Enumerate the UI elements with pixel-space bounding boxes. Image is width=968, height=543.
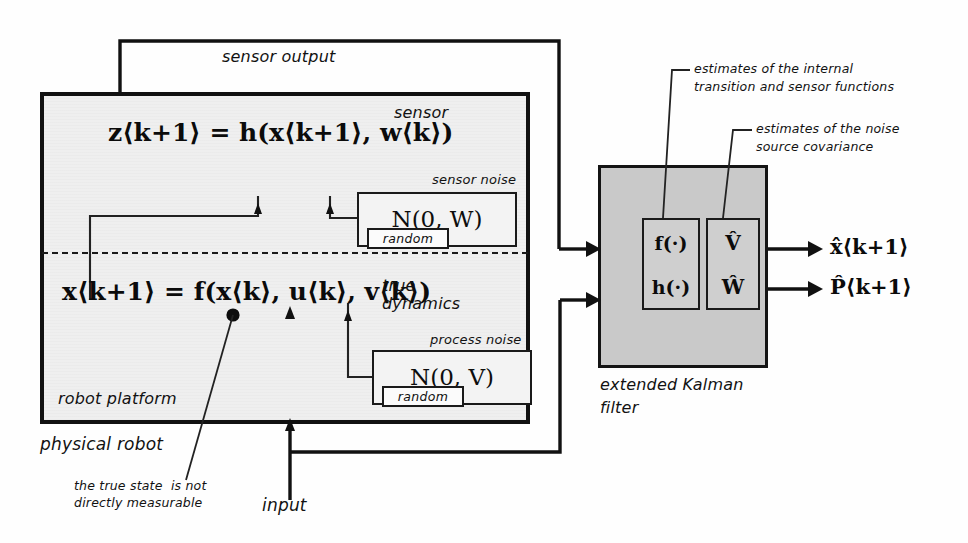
arrowhead-ekf-output-covariance — [808, 281, 823, 297]
arrowhead-state-feedback — [254, 203, 262, 214]
sensor-equation: z⟨k+1⟩ = h(x⟨k+1⟩, w⟨k⟩) — [108, 118, 453, 149]
wire-process-noise — [348, 303, 372, 377]
arrowhead-input-into-u — [285, 306, 295, 319]
estimates-functions-annotation-1: estimates of the internal — [694, 61, 853, 76]
arrowhead-input-into-robot — [285, 418, 295, 431]
true-dynamics-label-2: dynamics — [382, 294, 460, 314]
sensor-noise-caption: sensor noise — [432, 172, 516, 188]
ekf-caption-1: extended Kalman — [600, 375, 744, 395]
arrowhead-ekf-input-sensor — [586, 241, 601, 257]
true-state-annotation-1: the true state is not — [74, 478, 207, 493]
estimates-noise-annotation-1: estimates of the noise — [756, 121, 900, 136]
robot-platform-label: robot platform — [58, 389, 177, 409]
arrowhead-sensor-noise — [326, 203, 334, 214]
leader-estimates-noise — [723, 130, 752, 218]
input-label: input — [262, 495, 307, 516]
true-state-annotation-2: directly measurable — [74, 495, 203, 510]
ekf-output-covariance-label: P̂⟨k+1⟩ — [830, 274, 912, 300]
leader-true-state — [186, 315, 233, 480]
ekf-caption-2: filter — [600, 398, 638, 418]
process-noise-caption: process noise — [430, 332, 522, 348]
sensor-output-label: sensor output — [222, 47, 335, 67]
diagram-canvas: f(·) h(·) V̂ Ŵ N(0, W) random N(0, V) r… — [0, 0, 968, 543]
arrowhead-process-noise — [344, 310, 352, 321]
estimates-functions-annotation-2: transition and sensor functions — [694, 79, 894, 94]
ekf-output-state-label: x̂⟨k+1⟩ — [830, 234, 908, 260]
arrowhead-ekf-output-state — [808, 241, 823, 257]
dynamics-equation: x⟨k+1⟩ = f(x⟨k⟩, u⟨k⟩, v⟨k⟩) — [62, 277, 431, 308]
arrowhead-ekf-input-control — [586, 292, 601, 308]
leader-estimates-functions — [663, 70, 690, 218]
estimates-noise-annotation-2: source covariance — [756, 139, 874, 154]
wire-sensor-noise — [330, 196, 357, 218]
physical-robot-label: physical robot — [40, 434, 163, 455]
true-dynamics-label-1: true — [382, 276, 416, 296]
